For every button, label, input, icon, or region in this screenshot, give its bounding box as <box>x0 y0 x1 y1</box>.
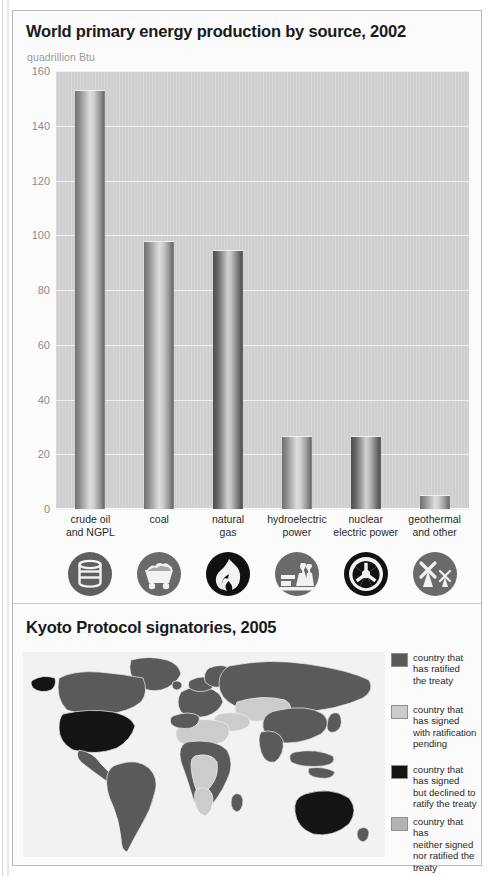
radiation-icon <box>343 551 389 597</box>
energy-production-chart-panel: World primary energy production by sourc… <box>13 11 481 601</box>
x-axis-label-line: electric power <box>333 526 398 538</box>
chart-unit-label: quadrillion Btu <box>27 51 95 63</box>
map-legend: country thathas ratifiedthe treatycountr… <box>391 652 477 857</box>
y-axis-tick-label: 40 <box>38 394 50 406</box>
bar-hydroelectric-power <box>282 436 312 509</box>
x-axis-label-line: natural <box>212 513 244 525</box>
legend-swatch <box>391 817 408 831</box>
legend-label: country that hasneither signednor ratifi… <box>413 816 477 873</box>
windmill-icon <box>412 551 458 597</box>
chart-bars <box>56 71 469 509</box>
x-axis-label-line: nuclear <box>349 513 383 525</box>
chart-title: World primary energy production by sourc… <box>26 22 406 41</box>
x-axis-label-line: geothermal <box>408 513 461 525</box>
x-axis-label: hydroelectricpower <box>264 513 331 538</box>
bar-nuclear-electric-power <box>351 436 381 509</box>
legend-item: country thathas signedbut declined torat… <box>391 764 477 810</box>
x-axis-label: crude oiland NGPL <box>57 513 124 538</box>
legend-label-line: nor ratified the <box>413 850 474 861</box>
legend-label-line: country that <box>413 652 463 663</box>
legend-label-line: country that <box>413 764 463 775</box>
power-plant-icon <box>274 551 320 597</box>
y-axis-tick-label: 20 <box>38 448 50 460</box>
x-axis-label-line: crude oil <box>71 513 111 525</box>
bar-crude-oil-and-NGPL <box>75 90 105 509</box>
legend-label-line: neither signed <box>413 839 473 850</box>
legend-swatch <box>391 765 408 779</box>
chart-x-axis-labels: crude oiland NGPLcoalnaturalgashydroelec… <box>56 513 469 553</box>
x-axis-label-line: and NGPL <box>66 526 115 538</box>
y-axis-tick-label: 80 <box>38 284 50 296</box>
page-edge-rule-secondary <box>7 0 9 876</box>
legend-swatch <box>391 653 408 667</box>
legend-label: country thathas signedwith ratificationp… <box>413 704 476 750</box>
gridline: 0 <box>56 509 469 510</box>
legend-item: country that hasneither signednor ratifi… <box>391 816 477 873</box>
y-axis-tick-label: 140 <box>32 120 50 132</box>
legend-label-line: the treaty <box>413 675 453 686</box>
bar-coal <box>144 241 174 509</box>
legend-label-line: pending <box>413 738 447 749</box>
legend-item: country thathas ratifiedthe treaty <box>391 652 477 686</box>
y-axis-tick-label: 120 <box>32 175 50 187</box>
bar-natural-gas <box>213 250 243 509</box>
world-map <box>23 652 385 857</box>
page-edge-rule <box>2 0 3 876</box>
x-axis-label-line: and other <box>412 526 456 538</box>
legend-label-line: treaty <box>413 862 437 873</box>
x-axis-label-line: hydroelectric <box>267 513 327 525</box>
x-axis-label: nuclearelectric power <box>332 513 399 538</box>
kyoto-map-panel: Kyoto Protocol signatories, 2005 <box>13 603 481 866</box>
legend-label-line: ratify the treaty <box>413 798 476 809</box>
y-axis-tick-label: 160 <box>32 65 50 77</box>
legend-label-line: has ratified <box>413 663 460 674</box>
coal-cart-icon <box>136 551 182 597</box>
legend-label-line: country that has <box>413 816 463 838</box>
legend-swatch <box>391 705 408 719</box>
oil-barrel-icon <box>67 551 113 597</box>
y-axis-tick-label: 100 <box>32 229 50 241</box>
world-map-svg <box>23 652 385 857</box>
legend-label-line: country that <box>413 704 463 715</box>
infographic-card: World primary energy production by sourc… <box>12 10 482 866</box>
legend-label: country thathas signedbut declined torat… <box>413 764 476 810</box>
y-axis-tick-label: 0 <box>44 503 50 515</box>
x-axis-label: coal <box>126 513 193 526</box>
legend-label-line: but declined to <box>413 787 475 798</box>
x-axis-label: geothermaland other <box>401 513 468 538</box>
map-title: Kyoto Protocol signatories, 2005 <box>26 618 276 637</box>
chart-source-icons <box>56 551 469 599</box>
chart-plot-area: 020406080100120140160 <box>56 71 469 509</box>
legend-label-line: with ratification <box>413 727 476 738</box>
x-axis-label-line: power <box>283 526 312 538</box>
flame-icon <box>205 551 251 597</box>
x-axis-label-line: gas <box>220 526 237 538</box>
bar-geothermal-and-other <box>420 495 450 509</box>
legend-label-line: has signed <box>413 715 459 726</box>
legend-label-line: has signed <box>413 775 459 786</box>
x-axis-label-line: coal <box>150 513 169 525</box>
x-axis-label: naturalgas <box>195 513 262 538</box>
legend-label: country thathas ratifiedthe treaty <box>413 652 463 686</box>
legend-item: country thathas signedwith ratificationp… <box>391 704 477 750</box>
y-axis-tick-label: 60 <box>38 339 50 351</box>
